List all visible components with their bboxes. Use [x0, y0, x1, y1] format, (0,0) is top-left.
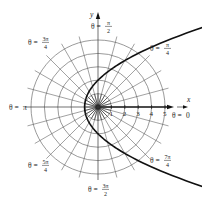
- angle-label-theta-3pi-over-2: θ = 3π2: [88, 183, 109, 197]
- angle-label-theta-7pi-over-4: θ = 7π4: [150, 154, 171, 168]
- tick-label-2: 2: [123, 110, 127, 118]
- angle-numerator: 3π: [102, 183, 108, 189]
- y-axis-label: y: [89, 10, 94, 19]
- angle-label-theta-0: θ = 0: [172, 111, 190, 120]
- angle-denominator: 4: [166, 50, 169, 56]
- angle-numerator: 7π: [164, 154, 170, 160]
- tick-label-4: 4: [150, 110, 154, 118]
- tick-label-1: 1: [109, 110, 113, 118]
- polar-axis-arrow-icon: [167, 105, 174, 109]
- angle-label-prefix: θ =: [150, 156, 160, 165]
- polar-graph-figure: xy 12345 θ = 0θ = π4θ = π2θ = 3π4θ = πθ …: [0, 0, 202, 213]
- angle-label-theta-5pi-over-4: θ = 5π4: [28, 159, 49, 173]
- angle-numerator: 5π: [42, 159, 48, 165]
- angle-label-prefix: θ =: [88, 185, 98, 194]
- polar-plot: xy 12345 θ = 0θ = π4θ = π2θ = 3π4θ = πθ …: [0, 0, 202, 213]
- angle-label-theta-pi-over-2: θ = π2: [91, 20, 112, 34]
- x-axis-arrow-icon: [183, 105, 188, 109]
- angle-numerator: π: [166, 42, 169, 48]
- angle-label-prefix: θ =: [91, 22, 101, 31]
- angle-value: 0: [186, 111, 190, 120]
- angle-label-prefix: θ =: [28, 38, 38, 47]
- angle-label-theta-pi: θ = π: [9, 103, 27, 112]
- angle-denominator: 2: [104, 191, 107, 197]
- angle-label-prefix: θ =: [9, 103, 19, 112]
- y-axis-arrow-icon: [96, 12, 100, 19]
- angle-denominator: 4: [44, 44, 47, 50]
- angle-denominator: 4: [166, 162, 169, 168]
- tick-label-5: 5: [163, 110, 167, 118]
- angle-label-prefix: θ =: [28, 161, 38, 170]
- tick-label-3: 3: [136, 110, 140, 118]
- angle-label-theta-3pi-over-4: θ = 3π4: [28, 36, 49, 50]
- angle-denominator: 4: [44, 167, 47, 173]
- angle-numerator: π: [107, 20, 110, 26]
- angle-denominator: 2: [107, 28, 110, 34]
- x-axis-label: x: [186, 95, 191, 104]
- angle-label-prefix: θ =: [150, 44, 160, 53]
- angle-numerator: 3π: [42, 36, 48, 42]
- angle-value: π: [23, 103, 27, 112]
- angle-label-prefix: θ =: [172, 111, 182, 120]
